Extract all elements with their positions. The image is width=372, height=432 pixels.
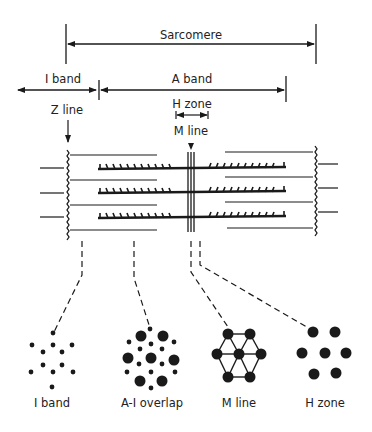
cross-section-i-band <box>29 331 76 390</box>
cross-section-label-i-band: I band <box>34 396 70 410</box>
cross-section-label-a-i-overlap: A-I overlap <box>121 396 183 410</box>
thick-filaments <box>98 162 286 218</box>
h-zone-label: H zone <box>172 97 212 111</box>
m-line-pointer <box>188 143 194 150</box>
z-line-left <box>67 150 69 240</box>
z-line-label: Z line <box>51 103 83 117</box>
sarcomere-diagram: Sarcomere I band A band H zone Z line M … <box>0 0 372 432</box>
sarcomere-svg <box>0 0 372 432</box>
h-zone-dimension <box>176 111 208 119</box>
cross-section-label-h-zone: H zone <box>305 396 345 410</box>
cross-section-h-zone <box>297 327 352 380</box>
a-band-label: A band <box>172 72 212 86</box>
cross-section-label-m-line: M line <box>222 396 256 410</box>
leader-lines <box>54 241 312 332</box>
cross-section-m-line <box>212 329 267 383</box>
z-line-right <box>315 146 317 236</box>
m-line-label: M line <box>174 124 208 138</box>
i-band-label: I band <box>45 72 81 86</box>
sarcomere-label: Sarcomere <box>160 28 222 42</box>
cross-section-a-i-overlap <box>123 327 180 391</box>
